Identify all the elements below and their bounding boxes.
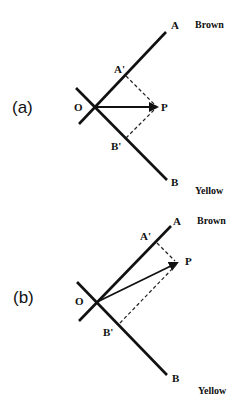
- axis-b-line: [76, 88, 167, 180]
- projection-b-dashed: [120, 265, 176, 323]
- vector-op: [97, 263, 177, 302]
- panel-b-label: (b): [13, 288, 34, 307]
- diagram-canvas: (a) O A A' P B' B Brown Yellow (b) O A A…: [0, 0, 242, 415]
- axis-a-line: [79, 32, 166, 124]
- projection-a-dashed: [157, 243, 175, 261]
- point-a-label: A: [171, 19, 179, 31]
- point-b-prime-label: B': [111, 140, 121, 152]
- projection-a-dashed: [126, 76, 156, 106]
- point-p-label: P: [161, 101, 168, 113]
- panel-a-label: (a): [12, 98, 33, 117]
- axis-b-line: [77, 282, 167, 375]
- point-b-label: B: [172, 372, 180, 384]
- point-o-label: O: [74, 101, 83, 113]
- point-b-prime-label: B': [103, 326, 113, 338]
- point-p-label: P: [185, 255, 192, 267]
- axis-a-color-label: Brown: [197, 215, 226, 226]
- point-a-label: A: [173, 215, 181, 227]
- point-b-label: B: [171, 176, 179, 188]
- axis-b-color-label: Yellow: [198, 385, 227, 396]
- axis-b-color-label: Yellow: [195, 185, 224, 196]
- point-a-prime-label: A': [140, 230, 151, 242]
- axis-a-color-label: Brown: [195, 19, 224, 30]
- panel-a: (a) O A A' P B' B Brown Yellow: [12, 19, 224, 196]
- point-o-label: O: [75, 295, 84, 307]
- point-a-prime-label: A': [114, 63, 125, 75]
- panel-b: (b) O A A' P B' B Brown Yellow: [13, 215, 227, 396]
- projection-b-dashed: [126, 108, 156, 138]
